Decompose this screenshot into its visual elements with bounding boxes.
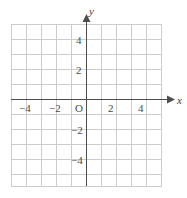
y-tick-label--4: −4: [71, 155, 83, 166]
x-tick-label-4: 4: [138, 103, 144, 114]
x-tick-label--4: −4: [19, 103, 31, 114]
x-tick-label-2: 2: [108, 103, 114, 114]
x-axis-label: x: [177, 95, 182, 106]
y-tick-label--2: −2: [71, 125, 83, 136]
y-axis-label: y: [89, 6, 94, 17]
coordinate-plane-figure: −4 −2 2 4 4 2 −2 −4 O x y: [0, 0, 187, 198]
y-tick-label-4: 4: [76, 35, 82, 46]
coordinate-plane-svg: [0, 0, 187, 198]
x-axis: [11, 96, 175, 104]
y-tick-label-2: 2: [76, 65, 82, 76]
origin-label: O: [75, 103, 83, 114]
x-tick-label--2: −2: [49, 103, 61, 114]
x-axis-arrowhead: [167, 96, 175, 104]
